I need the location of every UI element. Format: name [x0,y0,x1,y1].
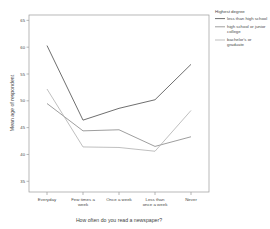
legend-label-2: bachelor's orgraduate [227,37,252,47]
legend-label-0: less than high school [227,16,267,21]
y-tick-label: 50 [20,98,25,103]
legend-title: Highest degree [215,9,245,14]
y-axis-ticks: 35404550556065 [20,18,29,184]
y-tick-label: 45 [20,125,25,130]
x-tick-label: Never [185,197,197,202]
x-axis-ticks: EverydayFew times aweekOnce a weekLess t… [38,192,198,207]
x-tick-label: Few times aweek [71,197,95,207]
y-tick-label: 40 [20,152,25,157]
legend: Highest degreeless than high schoolhigh … [215,9,267,47]
y-tick-label: 60 [20,45,25,50]
x-tick-label: Once a week [106,197,132,202]
line-chart: 35404550556065 EverydayFew times aweekOn… [0,0,270,229]
x-axis-title: How often do you read a newspaper? [76,217,162,223]
y-tick-label: 55 [20,72,25,77]
y-tick-label: 65 [20,18,25,23]
y-axis-title: Mean age of respondent [9,74,15,131]
chart-canvas: 35404550556065 EverydayFew times aweekOn… [0,0,270,229]
x-tick-label: Less thanonce a week [143,197,168,207]
y-tick-label: 35 [20,179,25,184]
legend-label-1: high school or juniorcollege [227,24,266,34]
x-tick-label: Everyday [38,197,57,202]
